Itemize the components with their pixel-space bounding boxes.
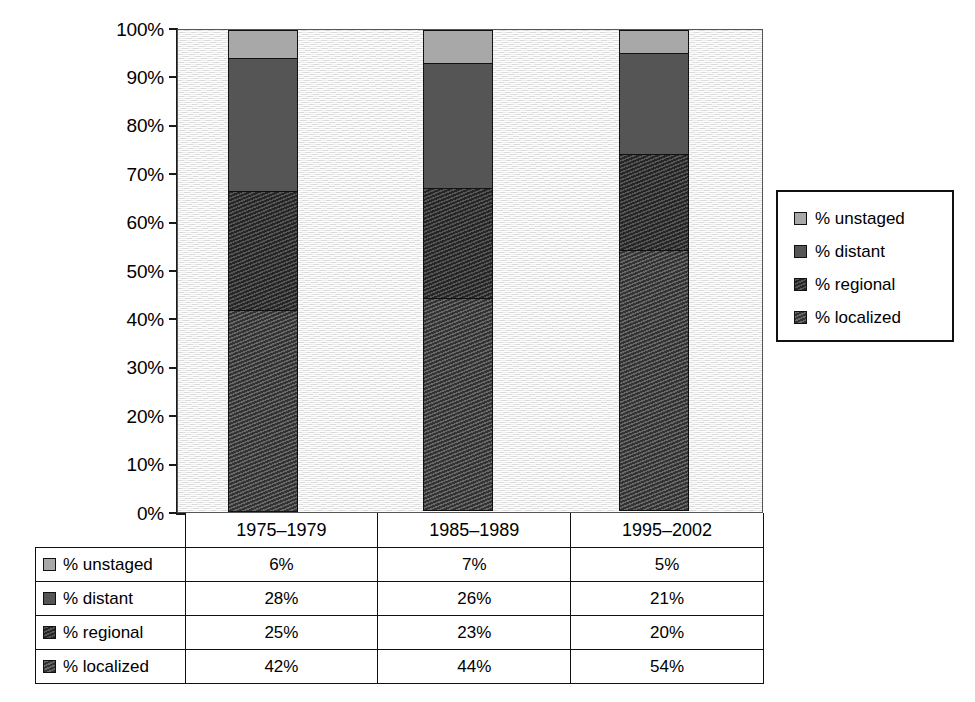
chart-root: 100%90%80%70%60%50%40%30%20%10%0% % unst…	[0, 0, 975, 702]
legend-swatch-localized-icon	[794, 311, 807, 324]
table-cell: 28%	[185, 582, 378, 616]
table-row: % localized42%44%54%	[36, 650, 764, 684]
bar-segment-unstaged	[423, 30, 493, 64]
table-cell: 23%	[378, 616, 571, 650]
legend-item: % distant	[794, 235, 952, 268]
bar-segment-regional	[619, 154, 689, 251]
table-row-label-inner: % regional	[43, 623, 185, 643]
legend-swatch-unstaged-icon	[794, 212, 807, 225]
table-header-cell: 1995–2002	[571, 513, 764, 548]
table-cell: 54%	[571, 650, 764, 684]
table-header-cell: 1975–1979	[185, 513, 378, 548]
table-cell: 25%	[185, 616, 378, 650]
bar-segment-distant	[619, 53, 689, 155]
table-row: % unstaged6%7%5%	[36, 548, 764, 582]
y-axis-tick-label: 10%	[127, 455, 169, 474]
legend-swatch-distant-icon	[794, 245, 807, 258]
bar-segment-distant	[228, 58, 298, 192]
legend-item-label: % unstaged	[815, 210, 905, 227]
legend-item-label: % distant	[815, 243, 885, 260]
legend: % unstaged% distant% regional% localized	[776, 190, 954, 342]
bar-segment-unstaged	[619, 30, 689, 54]
y-axis-tick-label: 90%	[127, 68, 169, 87]
y-axis-tick-label: 100%	[116, 20, 169, 39]
bar-segment-regional	[423, 188, 493, 299]
table-row-label-inner: % distant	[43, 589, 185, 609]
bar-segment-localized	[619, 250, 689, 511]
bar-segment-localized	[423, 298, 493, 511]
bar-column	[228, 30, 298, 512]
table-row: % regional25%23%20%	[36, 616, 764, 650]
legend-item-label: % localized	[815, 309, 901, 326]
table-row-label: % localized	[36, 650, 186, 684]
table-row: % distant28%26%21%	[36, 582, 764, 616]
table-cell: 42%	[185, 650, 378, 684]
table-row-label: % unstaged	[36, 548, 186, 582]
table-header-row: 1975–19791985–19891995–2002	[36, 513, 764, 548]
bar-segment-unstaged	[228, 30, 298, 59]
y-axis-tick-label: 30%	[127, 358, 169, 377]
legend-item: % localized	[794, 301, 952, 334]
bar-column	[423, 30, 493, 512]
table-row-label: % regional	[36, 616, 186, 650]
table-cell: 7%	[378, 548, 571, 582]
bar-column	[619, 30, 689, 512]
y-axis-tick-label: 20%	[127, 407, 169, 426]
table-corner-cell	[36, 513, 186, 548]
legend-item-label: % regional	[815, 276, 895, 293]
legend-swatch-distant-icon	[43, 592, 56, 605]
plot-area	[177, 29, 763, 513]
table-cell: 6%	[185, 548, 378, 582]
bar-segment-localized	[228, 310, 298, 512]
table-row-label-inner: % localized	[43, 657, 185, 677]
table-cell: 44%	[378, 650, 571, 684]
y-axis-tick-label: 80%	[127, 116, 169, 135]
table-cell: 26%	[378, 582, 571, 616]
y-axis-tick-label: 60%	[127, 213, 169, 232]
bar-segment-distant	[423, 63, 493, 189]
table-cell: 5%	[571, 548, 764, 582]
y-axis-tick-label: 40%	[127, 310, 169, 329]
y-axis-tick-label: 70%	[127, 165, 169, 184]
legend-item: % unstaged	[794, 202, 952, 235]
table-row-label-text: % localized	[63, 657, 149, 677]
table-cell: 20%	[571, 616, 764, 650]
table-cell: 21%	[571, 582, 764, 616]
table-row-label-inner: % unstaged	[43, 555, 185, 575]
bars-layer	[178, 30, 762, 512]
legend-swatch-regional-icon	[794, 278, 807, 291]
bar-segment-regional	[228, 191, 298, 311]
legend-swatch-regional-icon	[43, 626, 56, 639]
legend-item: % regional	[794, 268, 952, 301]
legend-swatch-unstaged-icon	[43, 558, 56, 571]
legend-swatch-localized-icon	[43, 660, 56, 673]
table-header-cell: 1985–1989	[378, 513, 571, 548]
y-axis-tick-label: 50%	[127, 262, 169, 281]
table-row-label-text: % unstaged	[63, 555, 153, 575]
table-row-label: % distant	[36, 582, 186, 616]
table-row-label-text: % distant	[63, 589, 133, 609]
data-table: 1975–19791985–19891995–2002% unstaged6%7…	[35, 513, 764, 684]
table-row-label-text: % regional	[63, 623, 143, 643]
